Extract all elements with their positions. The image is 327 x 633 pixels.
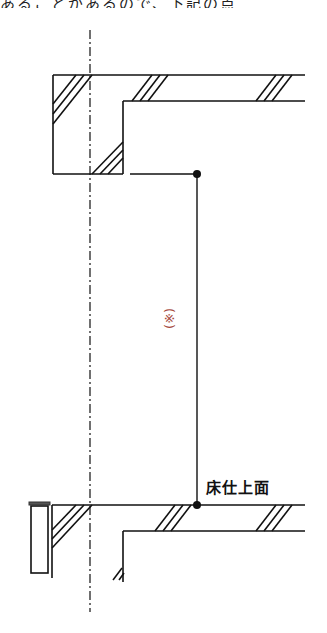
note-marker: (※) — [162, 308, 177, 329]
dimension-point-bottom — [193, 501, 201, 509]
upper-slab — [53, 75, 305, 174]
dimension-point-top — [193, 170, 201, 178]
window-frame — [29, 502, 50, 573]
floor-finish-label: 床仕上面 — [206, 476, 270, 497]
